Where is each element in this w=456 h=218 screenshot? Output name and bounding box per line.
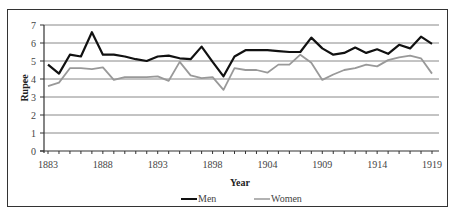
line-chart: 0123456718831888189318981904190919141919… xyxy=(0,0,456,218)
gridlines xyxy=(44,25,439,133)
legend-label-women: Women xyxy=(271,193,302,204)
x-tick-label: 1904 xyxy=(257,159,277,170)
x-tick-label: 1919 xyxy=(422,159,442,170)
series-line-women xyxy=(48,55,432,90)
x-tick-label: 1888 xyxy=(93,159,113,170)
x-tick-label: 1893 xyxy=(148,159,168,170)
x-axis-title: Year xyxy=(230,177,251,188)
y-axis-title: Rupee xyxy=(19,74,30,102)
y-tick-label: 0 xyxy=(31,146,36,157)
x-tick-label: 1883 xyxy=(38,159,58,170)
y-tick-label: 6 xyxy=(31,38,36,49)
axes: 0123456718831888189318981904190919141919 xyxy=(31,20,442,171)
y-tick-label: 5 xyxy=(31,56,36,67)
x-tick-label: 1898 xyxy=(203,159,223,170)
legend: Men Women xyxy=(181,193,302,204)
y-tick-label: 1 xyxy=(31,128,36,139)
y-tick-label: 4 xyxy=(31,74,36,85)
x-tick-label: 1914 xyxy=(367,159,387,170)
legend-label-men: Men xyxy=(198,193,216,204)
y-tick-label: 7 xyxy=(31,20,36,31)
y-tick-label: 3 xyxy=(31,92,36,103)
x-tick-label: 1909 xyxy=(312,159,332,170)
y-tick-label: 2 xyxy=(31,110,36,121)
